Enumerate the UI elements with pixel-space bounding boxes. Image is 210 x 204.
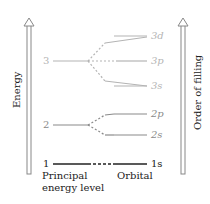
principal-caption-line2: energy level <box>42 182 104 193</box>
energy-level-diagram <box>0 0 210 204</box>
orbital-2p: 2p <box>151 108 164 119</box>
orbital-caption: Orbital <box>117 170 153 181</box>
principal-level-3: 3 <box>43 55 49 66</box>
orbital-2s: 2s <box>151 129 163 140</box>
order-of-filling-arrow-icon <box>178 18 188 174</box>
orbital-3s: 3s <box>151 80 163 91</box>
orbital-3p: 3p <box>151 55 164 66</box>
order-of-filling-axis-label: Order of filling <box>192 55 203 130</box>
orbital-1s: 1s <box>151 158 163 169</box>
principal-level-2: 2 <box>43 119 49 130</box>
principal-caption-line1: Principal <box>42 170 88 181</box>
energy-axis-label: Energy <box>11 72 22 109</box>
orbital-3d: 3d <box>151 30 164 41</box>
level-2-lines <box>53 114 147 135</box>
level-3-lines <box>53 37 147 86</box>
energy-arrow-icon <box>24 18 34 174</box>
principal-level-1: 1 <box>43 158 49 169</box>
